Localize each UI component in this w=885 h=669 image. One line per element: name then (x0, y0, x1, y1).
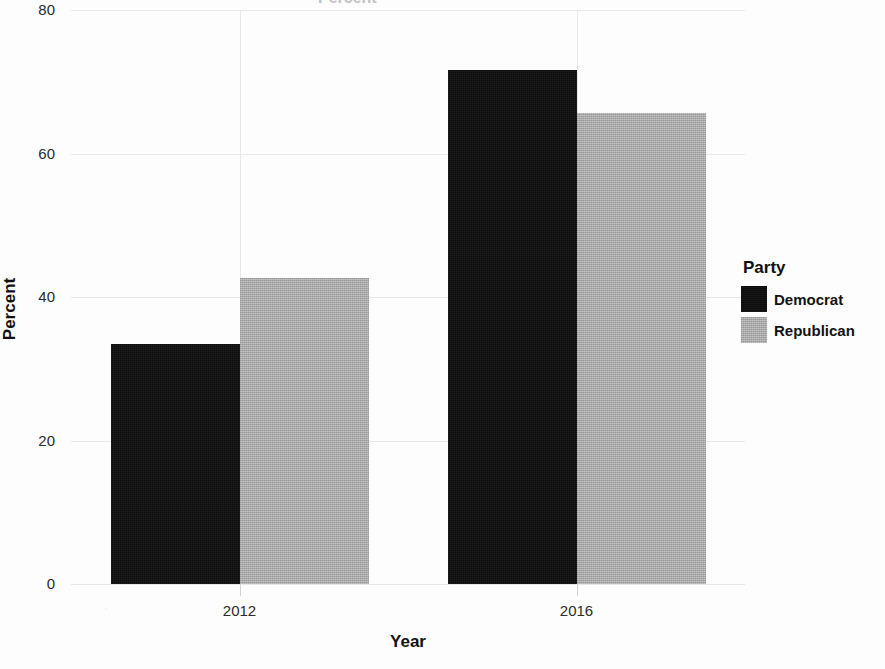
bar-republican-2016[interactable] (577, 113, 706, 584)
legend: Party Democrat Republican (741, 258, 855, 348)
legend-item-democrat[interactable]: Democrat (741, 286, 855, 312)
y-axis-tick-label: 20 (0, 432, 55, 449)
bar-democrat-2016[interactable] (448, 70, 577, 584)
x-axis-tick-label: 2016 (517, 602, 637, 619)
chart-page: Percent Percent 02040608020122016 Year P… (0, 0, 885, 669)
y-axis-tick-label: 80 (0, 1, 55, 18)
legend-title: Party (743, 258, 855, 278)
gridline-horizontal (71, 10, 745, 11)
y-axis-title: Percent (0, 239, 24, 379)
legend-item-republican[interactable]: Republican (741, 317, 855, 343)
legend-label-democrat: Democrat (774, 291, 843, 308)
bar-democrat-2012[interactable] (111, 344, 240, 584)
legend-label-republican: Republican (774, 322, 855, 339)
cropped-title-ghost: Percent (318, 0, 586, 7)
x-axis-tick-mark (577, 584, 578, 596)
gridline-horizontal (71, 584, 745, 585)
x-axis-tick-mark (240, 584, 241, 596)
y-axis-tick-label: 0 (0, 575, 55, 592)
plot-area: 02040608020122016 (71, 10, 745, 584)
gray-swatch-icon (741, 317, 767, 343)
y-axis-tick-label: 60 (0, 145, 55, 162)
cropped-title-text: Percent (318, 0, 586, 7)
y-axis-tick-label: 40 (0, 288, 55, 305)
black-swatch-icon (741, 286, 767, 312)
x-axis-title: Year (71, 632, 745, 652)
x-axis-tick-label: 2012 (180, 602, 300, 619)
bar-republican-2012[interactable] (240, 278, 369, 584)
